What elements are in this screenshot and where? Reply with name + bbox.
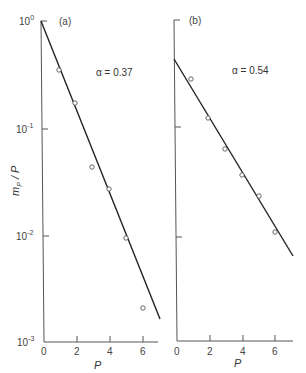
ytick-label-0: 100 xyxy=(19,14,34,27)
data-point xyxy=(57,68,61,72)
data-point xyxy=(240,173,244,177)
data-point xyxy=(107,187,111,191)
panel-a-xtick-label: 0 xyxy=(41,346,47,357)
data-point xyxy=(257,194,261,198)
data-point xyxy=(223,147,227,151)
data-point xyxy=(73,101,77,105)
panel-a-y-axis xyxy=(41,21,44,342)
panel-b-y-axis xyxy=(174,20,177,341)
panel-a-fit-line xyxy=(41,21,160,319)
panel-b-fit-line xyxy=(174,59,293,256)
data-point xyxy=(124,236,128,240)
ytick-label-2: 10-2 xyxy=(16,229,33,242)
ytick-label-1: 10-1 xyxy=(16,122,33,135)
panel-b-xtick-label: 6 xyxy=(272,346,278,357)
y-axis-title: mP / P xyxy=(9,165,23,196)
panel-b-xtick-label: 4 xyxy=(240,346,246,357)
panel-a-xtick-label: 4 xyxy=(107,346,113,357)
panel-b: 0 2 4 6 P (b) α = 0.54 xyxy=(174,15,293,369)
panel-b-xtick-label: 0 xyxy=(174,346,180,357)
panel-b-label: (b) xyxy=(189,15,201,26)
panel-b-x-axis-title: P xyxy=(234,357,242,369)
data-point xyxy=(90,165,94,169)
data-point xyxy=(206,116,210,120)
panel-b-xtick-label: 2 xyxy=(207,346,213,357)
panel-b-alpha: α = 0.54 xyxy=(232,65,269,76)
data-point xyxy=(189,77,193,81)
data-point xyxy=(141,306,145,310)
panel-a-alpha: α = 0.37 xyxy=(96,67,133,78)
data-point xyxy=(273,230,277,234)
panel-a-label: (a) xyxy=(59,16,71,27)
panel-a-data-points xyxy=(57,68,145,310)
panel-a-xtick-label: 2 xyxy=(74,346,80,357)
panel-a-xtick-label: 6 xyxy=(140,346,146,357)
panel-a-x-axis-title: P xyxy=(94,359,102,371)
figure: 100 10-1 10-2 10-3 0 2 4 6 P mP / P (a) … xyxy=(0,0,306,373)
panel-a: 100 10-1 10-2 10-3 0 2 4 6 P mP / P (a) … xyxy=(9,14,160,371)
ytick-label-3: 10-3 xyxy=(17,335,34,348)
